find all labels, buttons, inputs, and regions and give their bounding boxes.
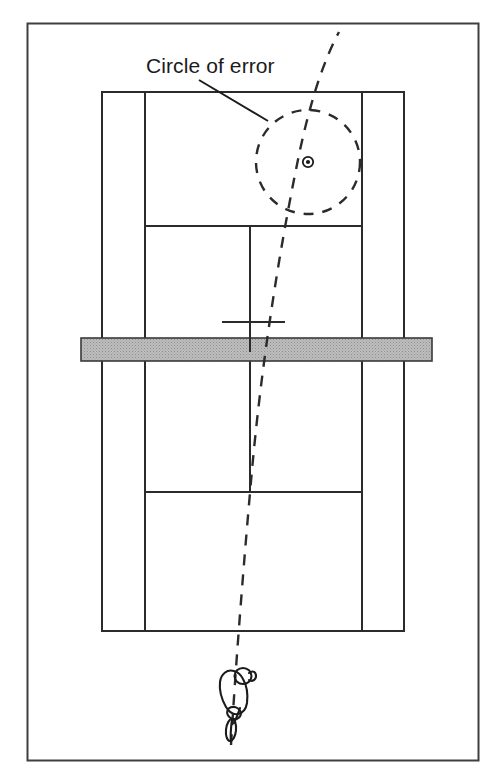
figure-container: Circle of error <box>0 0 498 779</box>
net-band <box>81 338 432 361</box>
target-point-dot <box>306 160 310 164</box>
circle-of-error-label: Circle of error <box>146 54 275 77</box>
net <box>81 338 432 361</box>
tennis-court-diagram: Circle of error <box>0 0 498 779</box>
